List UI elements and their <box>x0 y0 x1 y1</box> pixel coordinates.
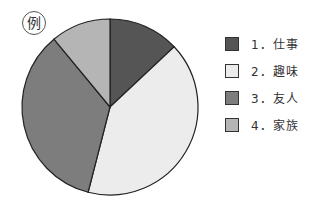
example-badge: 例 <box>22 11 46 35</box>
legend-item-friends: 3．友人 <box>225 84 299 111</box>
legend-item-hobby: 2．趣味 <box>225 57 299 84</box>
legend-label: 4．家族 <box>251 116 299 133</box>
legend-label: 2．趣味 <box>251 62 299 79</box>
legend: 1．仕事 2．趣味 3．友人 4．家族 <box>225 30 299 138</box>
legend-item-family: 4．家族 <box>225 111 299 138</box>
legend-swatch <box>225 37 239 51</box>
legend-swatch <box>225 91 239 105</box>
legend-label: 1．仕事 <box>251 35 299 52</box>
legend-label: 3．友人 <box>251 89 299 106</box>
legend-swatch <box>225 118 239 132</box>
legend-item-work: 1．仕事 <box>225 30 299 57</box>
legend-swatch <box>225 64 239 78</box>
